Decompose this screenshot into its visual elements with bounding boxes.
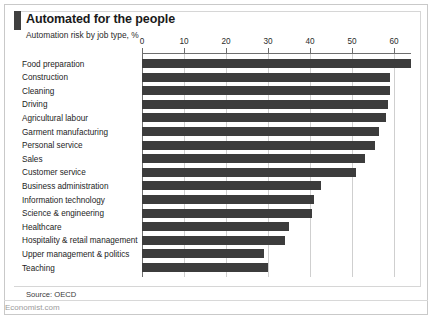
category-label: Food preparation [22,60,140,69]
footer-divider [4,300,428,301]
bar [142,127,379,136]
category-label: Garment manufacturing [22,128,140,137]
x-axis-line [142,53,411,54]
x-tick-label-20: 20 [221,37,230,46]
category-label: Business administration [22,182,140,191]
x-tick-label-10: 10 [179,37,188,46]
x-tick-label-40: 40 [305,37,314,46]
chart-figure: Automated for the people Automation risk… [0,0,432,319]
category-label: Cleaning [22,87,140,96]
page-title: Automated for the people [26,12,175,26]
bar [142,100,388,109]
bar [142,181,321,190]
category-label: Driving [22,100,140,109]
gridline-60 [394,53,395,277]
plot-area: 0102030405060Food preparationConstructio… [142,56,412,275]
brand-footer: Economist.com [5,303,60,312]
bar [142,59,411,68]
category-label: Information technology [22,196,140,205]
category-label: Teaching [22,264,140,273]
bar [142,195,314,204]
category-label: Agricultural labour [22,114,140,123]
bar [142,141,375,150]
x-tick-label-0: 0 [140,37,145,46]
bar [142,249,264,258]
category-label: Upper management & politics [22,250,140,259]
bar [142,168,356,177]
bar [142,236,285,245]
category-label: Customer service [22,168,140,177]
category-label: Sales [22,155,140,164]
x-tick-label-60: 60 [389,37,398,46]
bar [142,86,390,95]
category-label: Hospitality & retail management [22,236,140,245]
x-tick-label-30: 30 [263,37,272,46]
bar [142,263,268,272]
category-label: Personal service [22,141,140,150]
x-tick-label-50: 50 [347,37,356,46]
source-note: Source: OECD [26,290,76,299]
accent-bar [14,11,21,30]
bar [142,154,365,163]
bar [142,222,289,231]
bar [142,73,390,82]
category-label: Construction [22,73,140,82]
bar [142,113,386,122]
bar [142,209,312,218]
category-label: Science & engineering [22,209,140,218]
category-label: Healthcare [22,223,140,232]
chart-subtitle: Automation risk by job type, % [26,30,139,40]
